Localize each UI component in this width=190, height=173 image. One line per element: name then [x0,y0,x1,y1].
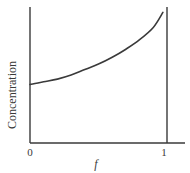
y-axis-label: Concentration [5,61,20,129]
x-tick-1: 1 [161,146,167,158]
x-axis-label: f [94,157,97,172]
x-tick-0: 0 [27,146,33,158]
concentration-curve [30,12,163,84]
